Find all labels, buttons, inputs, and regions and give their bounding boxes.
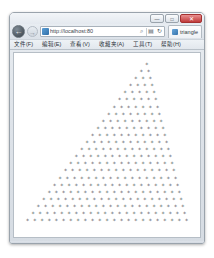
- browser-window: — □ ✕ ← → http://localhost:80 ⌕: [9, 12, 205, 244]
- address-bar[interactable]: http://localhost:80 ⌕ ▤ ↻: [40, 26, 165, 37]
- close-button[interactable]: ✕: [180, 14, 202, 23]
- back-button[interactable]: ←: [12, 25, 25, 38]
- menu-bar: 文件(F) 编辑(E) 查看(V) 收藏夹(A) 工具(T) 帮助(H): [10, 39, 204, 50]
- screenshot-root: — □ ✕ ← → http://localhost:80 ⌕: [0, 0, 214, 258]
- menu-item-favorites[interactable]: 收藏夹(A): [98, 40, 125, 49]
- back-arrow-icon: ←: [13, 28, 24, 36]
- menu-item-help[interactable]: 帮助(H): [160, 40, 182, 49]
- menu-item-view[interactable]: 查看(V): [69, 40, 90, 49]
- forward-arrow-icon: →: [28, 28, 37, 35]
- url-text: http://localhost:80: [50, 28, 137, 35]
- tab-title: triangle: [180, 29, 198, 36]
- menu-item-file[interactable]: 文件(F): [13, 40, 34, 49]
- navigation-bar: ← → http://localhost:80 ⌕ ▤ ↻ triangle: [10, 24, 204, 39]
- refresh-icon[interactable]: ↻: [156, 28, 163, 35]
- maximize-icon: □: [166, 16, 178, 21]
- content-area[interactable]: * * * * * * * * * * * * * * * * * * * * …: [13, 52, 201, 238]
- compatibility-view-icon[interactable]: ▤: [148, 28, 155, 35]
- minimize-button[interactable]: —: [150, 14, 164, 23]
- title-bar[interactable]: — □ ✕: [10, 13, 204, 24]
- close-icon: ✕: [181, 16, 201, 21]
- window-controls: — □ ✕: [150, 14, 202, 23]
- window-footer: [10, 241, 204, 244]
- search-icon[interactable]: ⌕: [138, 28, 145, 35]
- menu-item-edit[interactable]: 编辑(E): [41, 40, 62, 49]
- minimize-icon: —: [151, 16, 163, 21]
- menu-item-tools[interactable]: 工具(T): [132, 40, 153, 49]
- tab-strip: triangle: [168, 25, 202, 38]
- address-divider: [146, 28, 147, 36]
- tab-triangle[interactable]: triangle: [168, 25, 202, 38]
- tab-favicon-icon: [172, 29, 178, 35]
- site-favicon-icon: [42, 28, 49, 35]
- maximize-button[interactable]: □: [165, 14, 179, 23]
- triangle-pattern-output: * * * * * * * * * * * * * * * * * * * * …: [14, 61, 200, 224]
- forward-button[interactable]: →: [27, 26, 38, 37]
